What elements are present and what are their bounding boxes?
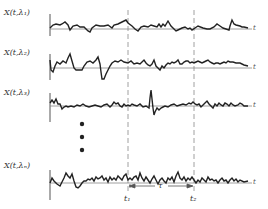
trace-label-n: X(t,λₙ) [4, 162, 30, 170]
axis-label-t-1: t [253, 25, 256, 32]
random-process-figure: X(t,λ₁) X(t,λ₂) X(t,λ₃) X(t,λₙ) t t t t … [0, 0, 268, 209]
sample-functions-plot [0, 0, 268, 209]
trace-2 [50, 54, 248, 79]
trace-1 [50, 20, 248, 32]
trace-label-2: X(t,λ₂) [4, 49, 30, 57]
t2-label: t₂ [190, 195, 196, 203]
trace-label-1: X(t,λ₁) [4, 9, 30, 17]
tau-label: τ [158, 182, 162, 190]
axis-label-t-3: t [253, 102, 256, 109]
trace-3 [50, 90, 248, 115]
t1-label: t₁ [124, 195, 130, 203]
ellipsis-dots [80, 122, 84, 152]
trace-label-3: X(t,λ₃) [4, 89, 30, 97]
axis-label-t-n: t [253, 179, 256, 186]
axis-label-t-2: t [253, 64, 256, 71]
